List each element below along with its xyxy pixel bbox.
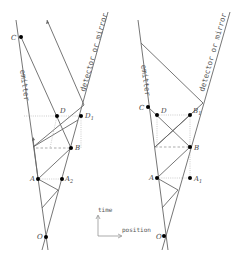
label-b: B xyxy=(74,144,80,152)
spacetime-diagrams: C D D1 B A A2 O emitter detector or mirr… xyxy=(0,0,238,259)
axes-legend: time position xyxy=(96,206,151,238)
light-ray xyxy=(42,190,58,208)
label-b: B xyxy=(193,144,199,152)
left-diagram: C D D1 B A A2 O emitter detector or mirr… xyxy=(11,11,109,250)
detector-label: detector or mirror xyxy=(78,11,109,92)
light-ray xyxy=(38,179,58,190)
point-a1 xyxy=(188,176,192,180)
label-d: D xyxy=(160,107,167,115)
point-d xyxy=(55,114,59,118)
label-a: A xyxy=(148,174,154,182)
point-o xyxy=(44,235,48,239)
point-c xyxy=(19,35,23,39)
emitter-worldline xyxy=(16,20,48,250)
point-b xyxy=(188,145,192,149)
label-d: D xyxy=(59,107,66,115)
emitter-label: emitter xyxy=(18,69,31,102)
position-label: position xyxy=(122,226,151,234)
label-c: C xyxy=(11,34,17,42)
label-b1: B1 xyxy=(192,107,201,116)
label-a1: A1 xyxy=(193,175,202,184)
light-ray-top xyxy=(47,20,84,105)
light-ray-c-b xyxy=(148,107,190,147)
label-d1: D1 xyxy=(84,112,94,121)
label-o: O xyxy=(37,233,43,241)
point-c xyxy=(146,105,150,109)
label-a1: A2 xyxy=(64,175,73,184)
light-ray xyxy=(162,190,178,208)
point-b xyxy=(69,146,73,150)
label-o: O xyxy=(156,233,162,241)
point-o xyxy=(162,234,166,238)
right-diagram: C D B1 B A A1 O emitter detector or mirr… xyxy=(138,11,230,250)
point-d1 xyxy=(79,114,83,118)
emitter-label: emitter xyxy=(139,64,152,97)
point-a xyxy=(36,177,40,181)
light-ray xyxy=(157,147,190,178)
time-label: time xyxy=(98,206,113,213)
point-a xyxy=(155,176,159,180)
detector-label: detector or mirror xyxy=(197,11,228,92)
point-a1 xyxy=(60,177,64,181)
label-a: A xyxy=(29,175,35,183)
label-c: C xyxy=(139,104,145,112)
point-b1 xyxy=(188,113,192,117)
point-d xyxy=(155,113,159,117)
